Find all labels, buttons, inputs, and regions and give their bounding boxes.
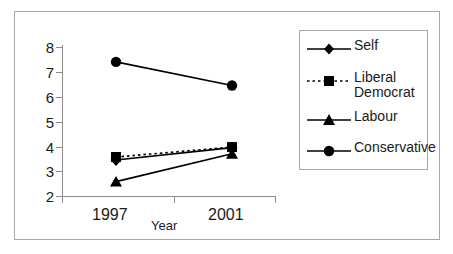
diamond-icon (324, 44, 334, 55)
legend-sample-labour (306, 110, 352, 130)
series-self (111, 142, 238, 166)
legend-entry-labour[interactable]: Labour (300, 110, 453, 130)
legend-sample-self (306, 39, 352, 59)
chart-figure: 8 7 6 5 4 3 2 1997 2001 Year Self (0, 0, 453, 254)
circle-icon (324, 146, 334, 156)
square-marker (111, 152, 121, 162)
series-group (110, 57, 238, 187)
legend-sample-liberal-democrat (306, 71, 352, 91)
series-line (116, 147, 232, 157)
square-icon (324, 76, 334, 86)
series-line (116, 62, 232, 86)
legend-label-conservative: Conservative (354, 140, 436, 155)
legend-entry-conservative[interactable]: Conservative (300, 141, 453, 161)
legend-label-liberal-democrat: Liberal Democrat (354, 70, 415, 100)
legend: Self Liberal Democrat Labour Conservativ… (299, 30, 428, 170)
circle-marker (111, 57, 121, 67)
series-conservative (111, 57, 237, 91)
legend-entry-self[interactable]: Self (300, 39, 453, 59)
legend-sample-conservative (306, 141, 352, 161)
legend-label-self: Self (354, 38, 378, 53)
legend-label-labour: Labour (354, 109, 398, 124)
circle-marker (227, 80, 237, 90)
legend-entry-liberal-democrat[interactable]: Liberal Democrat (300, 71, 453, 91)
